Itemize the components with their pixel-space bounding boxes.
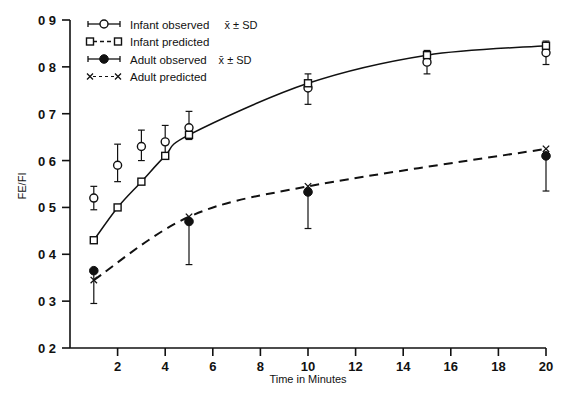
- y-tick-label: 0 8: [38, 60, 56, 75]
- x-tick-label: 6: [209, 359, 216, 374]
- legend-label: Infant observed: [130, 19, 209, 31]
- y-tick-label: 0 4: [38, 247, 57, 262]
- open-circle-marker: [542, 49, 550, 57]
- legend-suffix: x̄ ± SD: [225, 19, 258, 31]
- x-axis-title: Time in Minutes: [269, 373, 347, 385]
- open-square-marker: [424, 52, 431, 59]
- open-circle-marker: [114, 161, 122, 169]
- x-tick-label: 8: [257, 359, 264, 374]
- x-tick-label: 12: [348, 359, 362, 374]
- open-square-marker: [90, 237, 97, 244]
- x-tick-label: 16: [444, 359, 458, 374]
- open-square-marker: [543, 42, 550, 49]
- x-tick-label: 14: [396, 359, 411, 374]
- open-circle-marker: [90, 194, 98, 202]
- open-circle-marker: [137, 143, 145, 151]
- open-circle-marker: [161, 138, 169, 146]
- open-square-marker: [138, 178, 145, 185]
- y-tick-label: 0 9: [38, 13, 56, 28]
- open-square-marker: [115, 38, 122, 45]
- chart-figure: 0 20 30 40 50 60 70 80 9 246810121416182…: [0, 0, 571, 399]
- y-tick-label: 0 3: [38, 294, 56, 309]
- open-square-marker: [186, 131, 193, 138]
- open-square-marker: [87, 38, 94, 45]
- y-tick-label: 0 5: [38, 200, 56, 215]
- open-square-marker: [305, 80, 312, 87]
- y-axis-title: FE/FI: [16, 173, 28, 200]
- filled-circle-marker: [100, 55, 109, 64]
- filled-circle-marker: [90, 266, 99, 275]
- chart-canvas: 0 20 30 40 50 60 70 80 9 246810121416182…: [0, 0, 571, 399]
- open-circle-marker: [423, 58, 431, 66]
- open-square-marker: [162, 152, 169, 159]
- open-circle-marker: [100, 20, 108, 28]
- x-tick-label: 18: [491, 359, 505, 374]
- filled-circle-marker: [542, 152, 551, 161]
- legend-label: Adult predicted: [130, 71, 207, 83]
- y-tick-label: 0 6: [38, 154, 56, 169]
- y-tick-label: 0 2: [38, 341, 56, 356]
- legend-label: Adult observed: [130, 54, 207, 66]
- x-tick-label: 20: [539, 359, 553, 374]
- open-circle-marker: [185, 124, 193, 132]
- open-square-marker: [114, 204, 121, 211]
- x-tick-label: 2: [114, 359, 121, 374]
- legend-label: Infant predicted: [130, 36, 209, 48]
- x-tick-label: 10: [301, 359, 315, 374]
- chart-background: [0, 0, 571, 399]
- x-tick-label: 4: [162, 359, 170, 374]
- y-tick-label: 0 7: [38, 107, 56, 122]
- legend-suffix: x̄ ± SD: [219, 54, 252, 66]
